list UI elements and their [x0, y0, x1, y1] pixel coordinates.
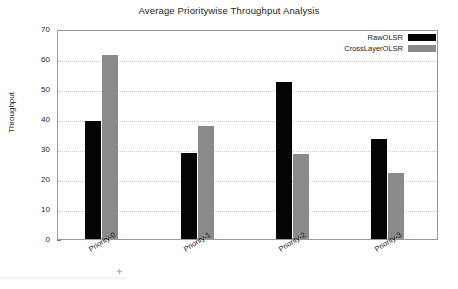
bar-crosslayerolsr-priority-0 — [102, 55, 118, 240]
bar-crosslayerolsr-priority-2 — [293, 154, 309, 240]
throughput-bar-chart: Average Prioritywise Throughput Analysis… — [0, 0, 458, 289]
y-tick-label: 50 — [8, 86, 50, 94]
legend-label: CrossLayerOLSR — [344, 44, 403, 53]
y-tick-label: 20 — [8, 176, 50, 184]
legend-swatch — [408, 34, 436, 41]
bar-rawolsr-priority-3 — [371, 139, 387, 239]
legend-item-rawolsr: RawOLSR — [368, 32, 436, 42]
bar-rawolsr-priority-1 — [181, 153, 197, 239]
y-tick-mark — [57, 240, 61, 241]
y-tick-label: 40 — [8, 116, 50, 124]
legend-label: RawOLSR — [368, 33, 403, 42]
y-tick-label: 0 — [8, 236, 50, 244]
bar-rawolsr-priority-0 — [85, 121, 101, 239]
bar-rawolsr-priority-2 — [276, 82, 292, 239]
chart-title: Average Prioritywise Throughput Analysis — [0, 5, 458, 16]
scan-artifact — [0, 272, 126, 283]
plot-area — [57, 30, 438, 240]
bar-crosslayerolsr-priority-3 — [388, 173, 404, 239]
bar-crosslayerolsr-priority-1 — [198, 126, 214, 239]
y-tick-label: 10 — [8, 206, 50, 214]
chart-legend: RawOLSRCrossLayerOLSR — [311, 32, 436, 56]
y-tick-label: 70 — [8, 26, 50, 34]
legend-item-crosslayerolsr: CrossLayerOLSR — [344, 43, 436, 53]
legend-swatch — [408, 45, 436, 52]
y-tick-label: 60 — [8, 56, 50, 64]
y-tick-label: 30 — [8, 146, 50, 154]
